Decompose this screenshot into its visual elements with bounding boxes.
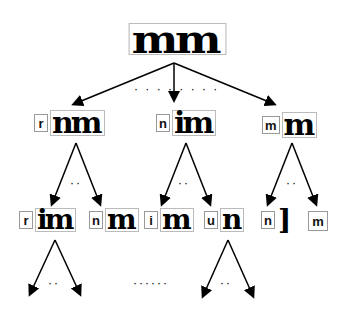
level1-node-n: n im — [156, 110, 216, 136]
root-word-image: mm — [129, 23, 227, 55]
ellipsis: ·· — [70, 176, 82, 190]
char-box: r — [34, 114, 48, 132]
level2-node-i: i m — [144, 208, 194, 232]
char-box: u — [204, 211, 218, 229]
char-box: r — [19, 211, 33, 229]
char-box: i — [144, 211, 158, 229]
ellipsis: ·· — [178, 176, 190, 190]
residual-image: im — [35, 208, 76, 232]
residual-image: nm — [50, 110, 105, 136]
residual-image: m — [105, 208, 139, 232]
level1-node-m: m m — [262, 112, 317, 138]
level2-node-u: u n — [204, 208, 244, 232]
root-node: mm — [133, 23, 222, 55]
level2-node-n: n m — [89, 208, 139, 232]
level1-node-r: r nm — [34, 110, 105, 136]
char-box: n — [156, 114, 170, 132]
level1-gap-dots: · · · · · · · · — [134, 82, 219, 96]
level2-node-n2: n ] — [261, 208, 292, 232]
char-box: m — [308, 211, 328, 231]
residual-image: ] — [277, 208, 292, 232]
level2-node-r: r im — [19, 208, 76, 232]
char-box: n — [261, 211, 275, 229]
residual-image: im — [172, 110, 216, 136]
char-box: m — [262, 116, 280, 134]
ellipsis-long: ······ — [133, 276, 169, 290]
ellipsis: ·· — [48, 276, 60, 290]
ellipsis: ·· — [286, 176, 298, 190]
ellipsis: ·· — [220, 276, 232, 290]
residual-image: m — [282, 112, 318, 138]
residual-image: n — [220, 208, 244, 232]
level2-node-m: m — [308, 211, 328, 231]
char-box: n — [89, 211, 103, 229]
residual-image: m — [160, 208, 194, 232]
